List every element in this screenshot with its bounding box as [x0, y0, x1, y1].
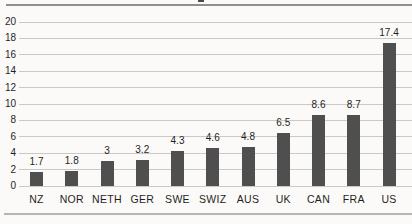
- gridline-y-20: [19, 22, 412, 23]
- gridline-y-16: [19, 54, 412, 55]
- top-rule: [6, 4, 412, 6]
- bar-nor: [65, 171, 78, 186]
- bar-value-label-swiz: 4.6: [197, 132, 229, 143]
- y-tick-label-14: 14: [0, 66, 16, 76]
- y-tick-label-4: 4: [0, 148, 16, 158]
- bar-value-label-can: 8.6: [303, 99, 335, 110]
- y-tick-label-16: 16: [0, 50, 16, 60]
- y-tick-label-10: 10: [0, 99, 16, 109]
- bottom-rule: [4, 213, 412, 215]
- bar-can: [312, 115, 325, 186]
- y-tick-label-6: 6: [0, 132, 16, 142]
- bar-value-label-nz: 1.7: [21, 156, 53, 167]
- bar-value-label-uk: 6.5: [267, 117, 299, 128]
- bar-value-label-ger: 3.2: [126, 144, 158, 155]
- y-tick-label-8: 8: [0, 115, 16, 125]
- bar-value-label-neth: 3: [91, 145, 123, 156]
- bar-ger: [136, 160, 149, 186]
- cropped-title-remnant: [198, 0, 204, 2]
- y-tick-label-20: 20: [0, 17, 16, 27]
- bar-us: [383, 43, 396, 186]
- gridline-y-14: [19, 71, 412, 72]
- y-tick-label-12: 12: [0, 83, 16, 93]
- bar-value-label-swe: 4.3: [162, 135, 194, 146]
- bar-uk: [277, 133, 290, 186]
- bar-value-label-fra: 8.7: [338, 99, 370, 110]
- bar-value-label-aus: 4.8: [232, 131, 264, 142]
- gridline-y-18: [19, 38, 412, 39]
- bar-chart: 024681012141618201.7NZ1.8NOR3NETH3.2GER4…: [0, 0, 412, 224]
- bar-swiz: [206, 148, 219, 186]
- y-tick-label-18: 18: [0, 33, 16, 43]
- bar-aus: [242, 147, 255, 186]
- bar-value-label-us: 17.4: [373, 27, 405, 38]
- y-tick-label-0: 0: [0, 181, 16, 191]
- bar-fra: [347, 115, 360, 186]
- bar-nz: [30, 172, 43, 186]
- bar-neth: [101, 161, 114, 186]
- x-category-label-us: US: [368, 193, 410, 205]
- bar-value-label-nor: 1.8: [56, 155, 88, 166]
- bar-swe: [171, 151, 184, 186]
- y-tick-label-2: 2: [0, 165, 16, 175]
- gridline-y-12: [19, 87, 412, 88]
